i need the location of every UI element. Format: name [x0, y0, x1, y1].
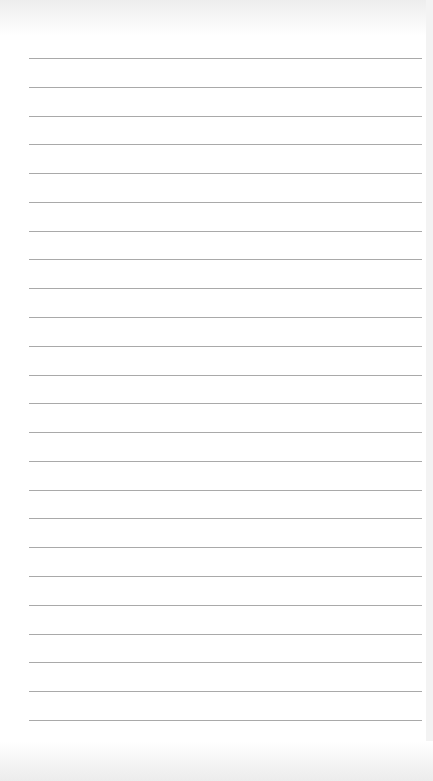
ruled-line: [29, 490, 422, 491]
ruled-line: [29, 231, 422, 232]
ruled-line: [29, 144, 422, 145]
ruled-line: [29, 317, 422, 318]
ruled-line: [29, 202, 422, 203]
ruled-line: [29, 432, 422, 433]
ruled-line: [29, 375, 422, 376]
ruled-line: [29, 116, 422, 117]
lined-paper-sheet: [0, 0, 433, 781]
ruled-line: [29, 605, 422, 606]
ruled-line: [29, 576, 422, 577]
ruled-line: [29, 259, 422, 260]
ruled-line: [29, 634, 422, 635]
ruled-line: [29, 87, 422, 88]
ruled-line: [29, 662, 422, 663]
ruled-line: [29, 720, 422, 721]
ruled-line: [29, 346, 422, 347]
ruled-line: [29, 518, 422, 519]
ruled-line: [29, 691, 422, 692]
ruled-line: [29, 58, 422, 59]
ruled-line: [29, 403, 422, 404]
ruled-line: [29, 173, 422, 174]
ruled-line: [29, 461, 422, 462]
ruled-line: [29, 288, 422, 289]
ruled-line: [29, 547, 422, 548]
